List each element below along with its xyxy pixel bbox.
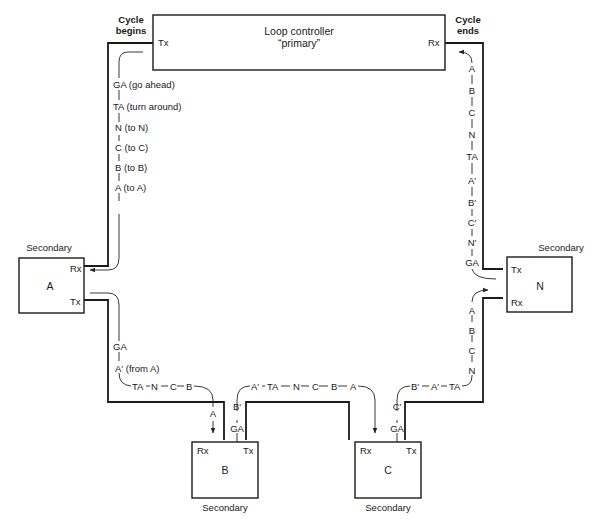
secondary-c-name: C (384, 464, 392, 476)
svg-text:TA: TA (267, 381, 279, 392)
flow-primary-to-a (119, 52, 143, 78)
primary-rx-port: Rx (428, 37, 440, 48)
svg-text:GA: GA (230, 423, 244, 434)
secondary-n-heading: Secondary (538, 242, 584, 253)
svg-text:B′: B′ (233, 401, 241, 412)
msg-n-to-n: N (to N) (115, 122, 148, 133)
secondary-c-rx: Rx (360, 445, 372, 456)
svg-text:N′: N′ (468, 237, 477, 248)
cycle-ends-label-2: ends (457, 25, 479, 36)
svg-text:C: C (469, 345, 476, 356)
svg-text:A: A (469, 305, 476, 316)
svg-text:B′: B′ (468, 197, 476, 208)
svg-text:A′: A′ (251, 381, 259, 392)
svg-text:C′: C′ (468, 217, 477, 228)
msg-a-prime-from-a: A′ (from A) (115, 363, 160, 374)
svg-text:N: N (151, 381, 158, 392)
sdlc-loop-diagram: Loop controller “primary” Tx Rx Cycle be… (0, 0, 603, 528)
svg-text:B: B (469, 325, 475, 336)
loop-line-c-to-n (405, 298, 503, 440)
msg-ga-go-ahead: GA (go ahead) (113, 79, 175, 90)
primary-subtitle: “primary” (278, 37, 320, 49)
svg-text:N: N (469, 365, 476, 376)
secondary-a-rx: Rx (70, 263, 82, 274)
loop-line (58, 43, 153, 266)
secondary-b-tx: Tx (243, 445, 254, 456)
msg-ta: TA (132, 381, 144, 392)
cycle-begins-label-2: begins (116, 25, 147, 36)
secondary-b-heading: Secondary (202, 502, 248, 513)
svg-text:TA: TA (466, 151, 478, 162)
msg-ta-turn-around: TA (turn around) (113, 101, 181, 112)
svg-text:N: N (469, 129, 476, 140)
svg-text:B: B (469, 85, 475, 96)
svg-text:C: C (469, 107, 476, 118)
svg-text:TA: TA (449, 381, 461, 392)
secondary-n: Secondary Tx Rx N (507, 242, 584, 312)
primary-title: Loop controller (264, 25, 334, 37)
cycle-begins-label-1: Cycle (118, 14, 143, 25)
secondary-a-name: A (46, 280, 53, 292)
svg-text:A′: A′ (431, 381, 439, 392)
secondary-c-tx: Tx (406, 445, 417, 456)
svg-text:GA: GA (465, 257, 479, 268)
svg-text:A′: A′ (468, 175, 476, 186)
svg-text:N: N (293, 381, 300, 392)
flow-n-to-primary (472, 269, 496, 279)
secondary-b: Rx Tx B Secondary (192, 442, 258, 513)
svg-text:B: B (331, 381, 337, 392)
secondary-n-tx: Tx (511, 264, 522, 275)
secondary-a-heading: Secondary (26, 242, 72, 253)
svg-text:C: C (170, 381, 177, 392)
secondary-a: Secondary A Rx Tx (19, 242, 84, 313)
secondary-n-name: N (536, 280, 544, 292)
loop-controller-primary: Loop controller “primary” Tx Rx (153, 15, 445, 70)
secondary-c-heading: Secondary (365, 502, 411, 513)
svg-text:A: A (350, 381, 357, 392)
svg-text:A: A (210, 408, 217, 419)
secondary-n-rx: Rx (511, 297, 523, 308)
msg-a-to-a: A (to A) (115, 182, 146, 193)
primary-tx-port: Tx (158, 37, 169, 48)
svg-text:B: B (186, 381, 192, 392)
msg-c-to-c: C (to C) (115, 142, 148, 153)
svg-text:GA: GA (390, 423, 404, 434)
cycle-ends-label-1: Cycle (455, 14, 480, 25)
msg-ga: GA (113, 341, 127, 352)
svg-text:B′: B′ (411, 381, 419, 392)
secondary-a-tx: Tx (70, 296, 81, 307)
secondary-c: Rx Tx C Secondary (355, 442, 421, 513)
secondary-b-name: B (221, 464, 228, 476)
svg-text:A: A (469, 63, 476, 74)
svg-text:C: C (312, 381, 319, 392)
msg-b-to-b: B (to B) (115, 162, 147, 173)
svg-text:C′: C′ (393, 401, 402, 412)
loop-line-b-to-c (246, 402, 349, 440)
secondary-b-rx: Rx (197, 445, 209, 456)
